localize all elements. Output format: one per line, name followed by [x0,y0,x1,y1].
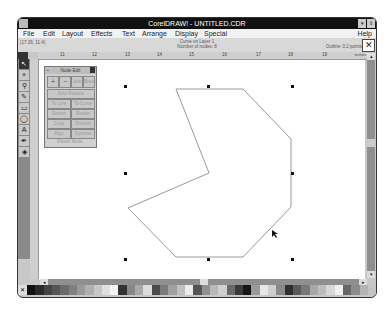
color-swatch[interactable] [168,285,176,295]
color-swatch[interactable] [301,285,309,295]
color-swatch[interactable] [218,285,226,295]
fill-tool-icon[interactable]: ◈ [19,147,29,157]
scroll-down-arrow[interactable]: ▾ [367,271,375,278]
color-swatch[interactable] [52,285,60,295]
pencil-tool-icon[interactable]: ✎ [19,92,29,102]
minimize-button[interactable]: ▾ [358,19,366,28]
rectangle-tool-icon[interactable]: ▭ [19,103,29,113]
color-swatch[interactable] [260,285,268,295]
color-swatch[interactable] [210,285,218,295]
pick-tool-corner [18,52,28,59]
color-swatch[interactable] [351,285,359,295]
color-swatch[interactable] [293,285,301,295]
color-swatch[interactable] [110,285,118,295]
color-swatch[interactable] [94,285,102,295]
delete-node-button[interactable]: − [59,76,71,88]
menu-layout[interactable]: Layout [62,29,83,38]
handle-bottom[interactable] [207,258,210,261]
ruler-label: 14 [157,52,162,57]
color-swatch[interactable] [69,285,77,295]
color-swatch[interactable] [310,285,318,295]
to-curve-button[interactable]: To Curve [71,99,95,109]
object-info: Curve on Layer 1 Number of nodes: 8 [18,39,376,49]
cusp-button[interactable]: Cusp [47,119,71,129]
rollup-menu-icon[interactable]: − [46,67,50,73]
curve-object[interactable] [128,89,291,257]
smooth-button[interactable]: Smooth [71,119,95,129]
menu-display[interactable]: Display [175,29,198,38]
add-node-button[interactable]: + [47,76,59,88]
no-color-swatch[interactable]: ✕ [18,285,27,295]
color-swatch[interactable] [227,285,235,295]
elastic-mode-checkbox[interactable]: Elastic Mode [47,138,93,146]
color-swatch[interactable] [135,285,143,295]
rollup-collapse-icon[interactable] [90,67,95,73]
node-edit-rollup: − Node Edit + − Join Break Auto-Reduce T… [44,66,97,148]
color-swatch[interactable] [243,285,251,295]
color-swatch[interactable] [44,285,52,295]
ellipse-tool-icon[interactable]: ◯ [19,114,29,124]
menu-effects[interactable]: Effects [91,29,112,38]
handle-bottom-right[interactable] [291,258,294,261]
pick-tool-icon[interactable]: ↖ [19,59,29,69]
color-swatch[interactable] [152,285,160,295]
color-swatch[interactable] [160,285,168,295]
color-swatch[interactable] [285,285,293,295]
restore-button[interactable]: ⇕ [367,19,375,28]
text-tool-icon[interactable]: A [19,125,29,135]
color-swatch[interactable] [118,285,126,295]
stretch-button[interactable]: Stretch [47,109,71,119]
menu-edit[interactable]: Edit [43,29,55,38]
horizontal-ruler[interactable]: 11 12 13 14 15 16 17 18 19 inches [38,52,368,60]
color-swatch[interactable] [185,285,193,295]
color-swatch[interactable] [326,285,334,295]
color-swatch[interactable] [143,285,151,295]
shape-tool-icon[interactable]: ⌖ [19,70,29,80]
color-swatch[interactable] [335,285,343,295]
vertical-scroll-thumb[interactable] [367,139,375,147]
color-swatch[interactable] [60,285,68,295]
rotate-button[interactable]: Rotate [71,109,95,119]
color-swatch[interactable] [235,285,243,295]
color-swatch[interactable] [177,285,185,295]
zoom-tool-icon[interactable]: ⚲ [19,81,29,91]
color-swatch[interactable] [77,285,85,295]
color-swatch[interactable] [102,285,110,295]
menu-text[interactable]: Text [122,29,135,38]
outline-tool-icon[interactable]: ✒ [19,136,29,146]
color-swatch[interactable] [360,285,368,295]
handle-top-right[interactable] [291,85,294,88]
color-swatch[interactable] [268,285,276,295]
handle-right[interactable] [291,172,294,175]
to-line-button[interactable]: To Line [47,99,71,109]
handle-top-left[interactable] [124,85,127,88]
outline-info: Outline: 0.2 points [326,44,362,49]
break-button[interactable]: Break [83,76,95,88]
menu-help[interactable]: Help [358,29,372,38]
color-swatch[interactable] [193,285,201,295]
vertical-ruler[interactable] [30,59,39,279]
color-swatch[interactable] [127,285,135,295]
color-swatch[interactable] [318,285,326,295]
color-swatch[interactable] [251,285,259,295]
handle-top[interactable] [207,85,210,88]
handle-left[interactable] [124,172,127,175]
menu-special[interactable]: Special [204,29,227,38]
color-swatch[interactable] [35,285,43,295]
color-swatch[interactable] [85,285,93,295]
close-icon[interactable]: ✕ [362,39,375,52]
color-swatch[interactable] [343,285,351,295]
vertical-scrollbar[interactable]: ▴ ▾ [367,53,375,278]
auto-reduce-button[interactable]: Auto-Reduce [47,89,95,99]
menu-arrange[interactable]: Arrange [142,29,167,38]
ruler-label: 16 [222,52,227,57]
menu-file[interactable]: File [23,29,34,38]
handle-bottom-left[interactable] [124,258,127,261]
scroll-up-arrow[interactable]: ▴ [367,53,375,60]
rollup-title-bar[interactable]: − Node Edit [45,67,96,74]
color-swatch[interactable] [276,285,284,295]
color-swatch[interactable] [202,285,210,295]
color-swatch[interactable] [368,285,376,295]
color-swatch[interactable] [27,285,35,295]
join-button[interactable]: Join [71,76,83,88]
